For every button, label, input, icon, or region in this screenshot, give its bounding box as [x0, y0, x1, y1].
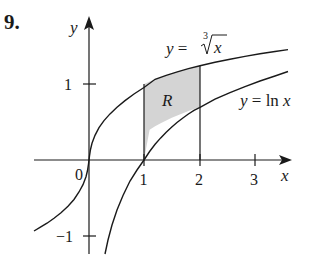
y-axis-label: y	[68, 18, 78, 37]
problem-number: 9.	[4, 10, 20, 34]
cube-root-label-prefix: y =	[164, 39, 187, 58]
x-axis-label: x	[280, 166, 289, 185]
cube-root-index: 3	[203, 30, 208, 41]
x-tick-label-1: 1	[140, 171, 148, 188]
graph-figure: 9. y x 0 1 2 3 1 −1 R y = 3 x y = ln x	[0, 0, 323, 258]
y-tick-label-1: 1	[64, 76, 72, 93]
x-tick-label-2: 2	[195, 171, 203, 188]
curve-cube-root	[34, 50, 288, 231]
region-r	[144, 66, 200, 160]
y-tick-label-neg1: −1	[56, 228, 73, 245]
region-label: R	[161, 91, 173, 110]
cube-root-radicand: x	[213, 38, 222, 57]
origin-label: 0	[75, 166, 83, 183]
x-tick-label-3: 3	[250, 171, 258, 188]
ln-label: y = ln x	[238, 91, 291, 110]
